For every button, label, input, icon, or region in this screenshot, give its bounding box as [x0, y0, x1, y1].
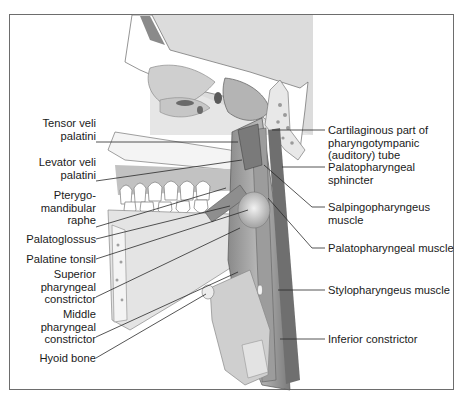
label-palatopharyngeal-sphincter: Palatopharyngeal sphincter	[328, 161, 415, 186]
label-levator-veli-palatini: Levator veli palatini	[39, 156, 96, 181]
label-hyoid-bone: Hyoid bone	[39, 352, 96, 365]
label-tensor-veli-palatini: Tensor veli palatini	[43, 117, 96, 142]
label-inferior-constrictor: Inferior constrictor	[328, 333, 418, 346]
larynx-and-hyoid	[202, 270, 270, 385]
label-stylopharyngeus-muscle: Stylopharyngeus muscle	[328, 284, 450, 297]
label-palatine-tonsil: Palatine tonsil	[26, 253, 96, 266]
label-salpingopharyngeus-muscle: Salpingopharyngeus muscle	[328, 201, 430, 226]
label-superior-pharyngeal-constrictor: Superior pharyngeal constrictor	[41, 268, 96, 306]
label-cartilaginous-pharyngotympanic-tube: Cartilaginous part of pharyngotympanic (…	[328, 124, 428, 162]
label-palatopharyngeal-muscle: Palatopharyngeal muscle	[328, 242, 454, 255]
label-palatoglossus: Palatoglossus	[26, 233, 96, 246]
label-middle-pharyngeal-constrictor: Middle pharyngeal constrictor	[41, 308, 96, 346]
label-pterygomandibular-raphe: Pterygo- mandibular raphe	[41, 189, 96, 227]
